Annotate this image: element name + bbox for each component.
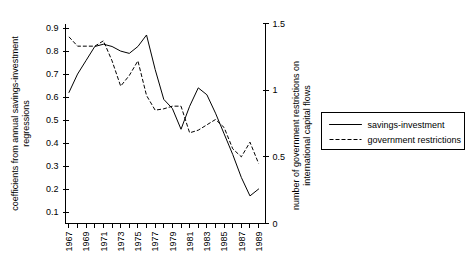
right-axis-tick-label: 1 [273,85,278,95]
x-axis-tick-label: 1981 [185,232,195,252]
left-axis-tick-label: 0.1 [46,207,59,217]
x-axis-tick-label: 1967 [64,232,74,252]
left-axis-title-line1: coefficients from annual savings-investm… [10,36,20,211]
x-axis-tick-label: 1983 [202,232,212,252]
left-axis-tick-label: 0.3 [46,161,59,171]
x-axis-tick-label: 1977 [150,232,160,252]
chart-legend[interactable]: savings-investmentgovernment restriction… [322,113,465,150]
x-axis-tick-label: 1969 [81,232,91,252]
series-lines [69,35,259,196]
right-axis-title-line2: international capital flows [302,85,312,186]
legend-label: savings-investment [368,120,446,130]
left-axis-tick-label: 0.7 [46,69,59,79]
x-axis-tick-label: 1975 [133,232,143,252]
left-axis-tick-label: 0.6 [46,92,59,102]
right-axis: 00.511.5 [263,19,286,229]
left-axis-tick-label: 0.8 [46,46,59,56]
x-axis-tick-label: 1979 [168,232,178,252]
right-axis-tick-label: 1.5 [273,19,286,29]
left-axis: 0.10.20.30.40.50.60.70.80.9 [46,23,69,223]
left-axis-title-line2: regressions [21,100,31,147]
x-axis-tick-label: 1989 [254,232,264,252]
legend-label: government restrictions [368,135,462,145]
x-axis-tick-label: 1987 [237,231,247,251]
x-axis-tick-label: 1985 [219,232,229,252]
series-line-savings-investment [69,35,259,196]
left-axis-tick-label: 0.9 [46,23,59,33]
series-line-government-restrictions [69,37,259,164]
right-axis-tick-label: 0.5 [273,152,286,162]
left-axis-tick-label: 0.2 [46,184,59,194]
right-axis-title-line1: number of government restrictions on [291,61,301,210]
x-axis-tick-label: 1973 [116,232,126,252]
chart-container: 0.10.20.30.40.50.60.70.80.9 00.511.5 196… [0,0,467,280]
line-chart: 0.10.20.30.40.50.60.70.80.9 00.511.5 196… [0,0,467,280]
left-axis-tick-label: 0.4 [46,138,59,148]
x-axis-tick-label: 1971 [99,232,109,252]
left-axis-tick-label: 0.5 [46,115,59,125]
right-axis-tick-label: 0 [273,219,278,229]
x-axis: 1967196919711973197519771979198119831985… [64,224,265,252]
